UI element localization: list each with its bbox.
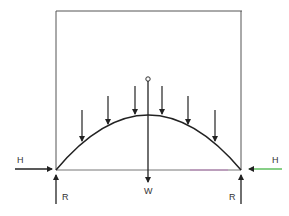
weight-label: W: [144, 186, 153, 196]
center-weight-line: [146, 77, 150, 182]
left-h-label: H: [17, 155, 24, 165]
frame-box: [56, 11, 242, 170]
right-r-label: R: [229, 192, 236, 202]
hinge-circle-icon: [146, 77, 150, 81]
right-h-label: H: [272, 155, 279, 165]
arch-diagram: W H R H R: [0, 0, 289, 216]
left-r-label: R: [62, 192, 69, 202]
